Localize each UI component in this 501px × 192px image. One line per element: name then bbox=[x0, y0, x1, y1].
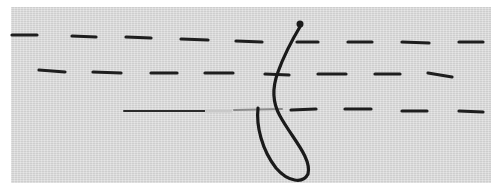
middle-stitch-row bbox=[39, 70, 452, 77]
needle-thread-loop bbox=[258, 25, 309, 180]
thread-end-knot bbox=[297, 21, 304, 28]
stitch-illustration bbox=[0, 0, 501, 192]
top-stitch-row bbox=[12, 35, 483, 43]
bottom-stitch-row bbox=[124, 109, 483, 112]
